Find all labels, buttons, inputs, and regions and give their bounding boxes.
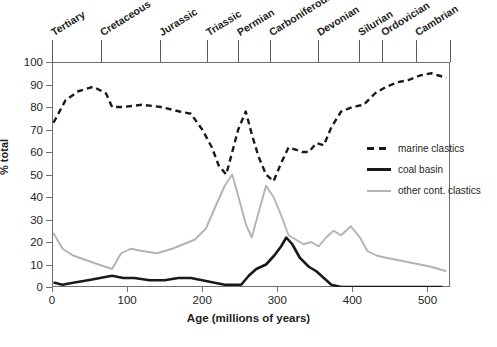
x-axis-tick [277,287,278,292]
y-axis-tick-label: 0 [37,281,43,293]
period-boundary-tick [52,40,53,62]
period-label-cretaceous: Cretaceous [97,0,152,38]
legend-label: marine clastics [398,143,464,154]
x-axis-tick [127,287,128,292]
y-axis-tick-label: 40 [30,191,43,203]
period-boundary-tick [359,40,360,62]
x-axis-tick [52,287,53,292]
period-label-devonian: Devonian [314,3,360,38]
y-axis-tick-label: 100 [24,56,43,68]
x-axis-tick [202,287,203,292]
x-axis-tick-label: 400 [343,294,362,306]
y-axis-tick-label: 60 [30,146,43,158]
period-boundary-tick [416,40,417,62]
x-axis-tick [427,287,428,292]
legend-label: coal basin [398,164,443,175]
y-axis-title: % total [0,139,10,175]
legend-item: marine clastics [367,138,481,159]
y-axis-tick-label: 20 [30,236,43,248]
legend-item: other cont. clastics [367,180,481,201]
period-boundary-tick [270,40,271,62]
chart-legend: marine clasticscoal basinother cont. cla… [367,138,481,201]
y-axis-tick-label: 90 [30,79,43,91]
series-line-coal-basin [54,238,443,288]
x-axis-tick-label: 0 [49,294,55,306]
period-boundary-tick [382,40,383,62]
x-axis-tick-label: 300 [268,294,287,306]
y-axis-tick-label: 10 [30,259,43,271]
x-axis-title: Age (millions of years) [0,312,497,324]
y-axis-tick-label: 70 [30,124,43,136]
legend-swatch-icon [367,147,391,150]
period-label-tertiary: Tertiary [49,8,87,38]
legend-item: coal basin [367,159,481,180]
period-label-jurassic: Jurassic [157,5,200,38]
period-boundary-tick [101,40,102,62]
y-axis-tick-label: 30 [30,214,43,226]
y-axis-tick-label: 50 [30,169,43,181]
period-boundary-tick [238,40,239,62]
x-axis-tick-label: 200 [193,294,212,306]
period-label-triassic: Triassic [203,7,243,38]
legend-swatch-icon [367,168,391,171]
legend-label: other cont. clastics [398,185,481,196]
period-boundary-tick [207,40,208,62]
chart-figure: TertiaryCretaceousJurassicTriassicPermia… [0,0,497,347]
x-axis-tick-label: 100 [118,294,137,306]
x-axis-tick-label: 500 [418,294,437,306]
legend-swatch-icon [367,190,391,192]
x-axis-tick [352,287,353,292]
y-axis-tick-label: 80 [30,101,43,113]
period-boundary-tick [318,40,319,62]
period-boundary-tick [160,40,161,62]
period-boundary-tick [450,40,451,62]
